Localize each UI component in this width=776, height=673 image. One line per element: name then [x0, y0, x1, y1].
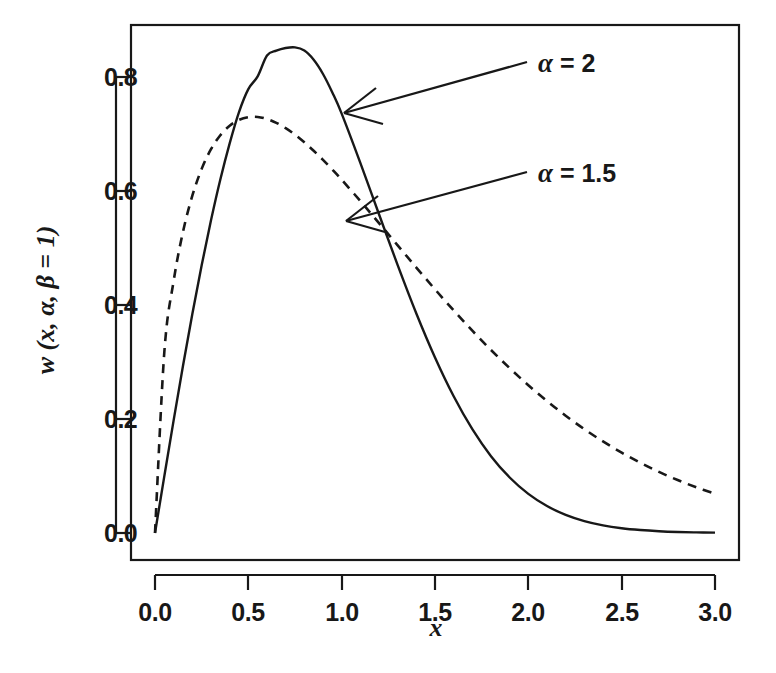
x-tick-label-1: 0.5	[231, 598, 264, 627]
weibull-density-chart	[0, 0, 776, 673]
annotation-label-alpha-1-5: α = 1.5	[538, 158, 616, 189]
x-axis-title: x	[430, 613, 443, 643]
plot-frame	[131, 25, 739, 560]
annotation-alpha-1-5-value: = 1.5	[553, 159, 616, 187]
x-tick-label-4: 2.0	[511, 598, 544, 627]
annotation-arrow-alpha-1-5	[346, 172, 527, 232]
x-tick-label-2: 1.0	[325, 598, 358, 627]
arrow-shaft	[344, 62, 527, 113]
annotation-alpha-2-value: = 2	[553, 49, 595, 77]
annotation-label-alpha-2: α = 2	[538, 48, 595, 79]
x-tick-label-6: 3.0	[698, 598, 731, 627]
curve-alpha-1-5	[155, 117, 715, 533]
x-tick-label-0: 0.0	[138, 598, 171, 627]
x-tick-label-5: 2.5	[605, 598, 638, 627]
y-axis-title: w (x, α, β = 1)	[31, 226, 61, 375]
alpha-glyph: α	[538, 158, 553, 188]
curve-alpha-2	[155, 47, 715, 533]
arrow-head-lower	[344, 113, 383, 124]
alpha-glyph: α	[538, 48, 553, 78]
x-axis	[155, 575, 715, 590]
annotation-arrow-alpha-2	[344, 62, 527, 124]
